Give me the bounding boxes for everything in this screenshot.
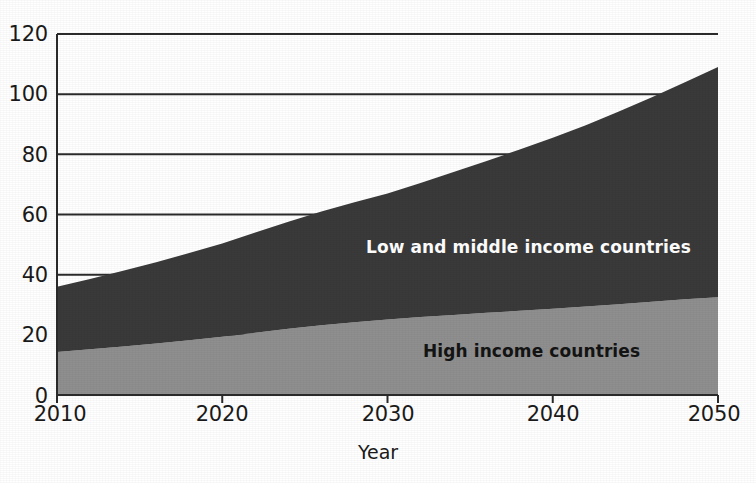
x-tick-2040: 2040 [527, 404, 580, 425]
y-tick-60: 60 [22, 205, 48, 226]
x-tick-2010: 2010 [34, 404, 87, 425]
series-label-high-income: High income countries [423, 341, 640, 361]
y-tick-40: 40 [22, 265, 48, 286]
y-tick-80: 80 [22, 145, 48, 166]
x-tick-2020: 2020 [196, 404, 249, 425]
y-tick-100: 100 [9, 84, 48, 105]
x-tick-2030: 2030 [362, 404, 415, 425]
series-label-low-and-middle-income: Low and middle income countries [366, 237, 691, 257]
y-tick-120: 120 [9, 24, 48, 45]
x-tick-2050: 2050 [688, 404, 741, 425]
y-tick-20: 20 [22, 325, 48, 346]
stacked-area-chart: 120 100 80 60 40 20 0 Low and middle inc… [0, 0, 756, 483]
x-axis-title: Year [0, 441, 756, 463]
